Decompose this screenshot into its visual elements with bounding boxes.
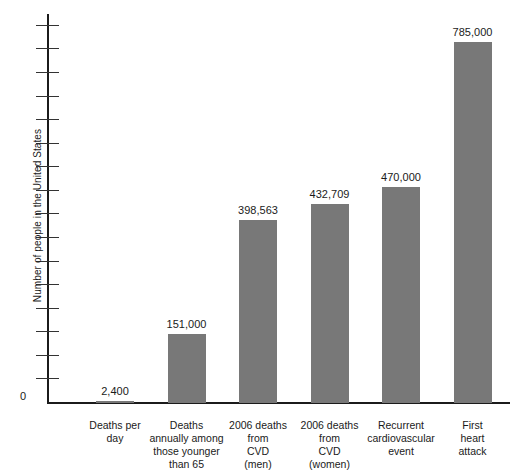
x-axis-category-label-line: from: [219, 432, 297, 445]
x-axis-category-label-line: Deaths per: [76, 419, 154, 432]
x-axis-category-label-line: from: [291, 432, 369, 445]
x-axis-category-label-line: event: [362, 445, 440, 458]
y-axis-tick: [36, 48, 59, 49]
y-axis-tick: [36, 25, 59, 26]
x-axis-category-label-line: 2006 deaths: [291, 419, 369, 432]
x-axis-category-label: 2006 deathsfromCVD(women): [291, 419, 369, 471]
x-axis-category-label: Firstheartattack: [434, 419, 512, 458]
y-axis-tick: [36, 378, 59, 379]
bar: [96, 401, 134, 403]
bar-value-label: 470,000: [356, 171, 446, 183]
bar-value-label: 398,563: [213, 204, 303, 216]
x-axis-category-label: Deaths perday: [76, 419, 154, 445]
bar: [382, 187, 420, 403]
x-axis-category-label-line: (women): [291, 458, 369, 471]
x-axis-category-label: Deathsannually amongthose youngerthan 65: [148, 419, 226, 471]
x-axis-category-label-line: those younger: [148, 445, 226, 458]
bar: [168, 334, 206, 403]
y-axis-tick: [36, 355, 59, 356]
y-axis-zero-label: 0: [20, 390, 26, 402]
bar-value-label: 151,000: [142, 318, 232, 330]
x-axis-category-label: 2006 deathsfromCVD(men): [219, 419, 297, 471]
x-axis-category-label-line: (men): [219, 458, 297, 471]
x-axis-category-label-line: heart: [434, 432, 512, 445]
bar-value-label: 785,000: [428, 26, 518, 38]
x-axis-category-label-line: than 65: [148, 458, 226, 471]
bar-value-label: 432,709: [285, 188, 375, 200]
y-axis-tick: [36, 331, 59, 332]
bar: [239, 220, 277, 403]
y-axis-title: Number of people in the United States: [32, 116, 43, 316]
bar: [454, 42, 492, 403]
x-axis-category-label-line: First: [434, 419, 512, 432]
bar: [311, 204, 349, 403]
bar-value-label: 2,400: [70, 385, 160, 397]
x-axis-category-label-line: Deaths: [148, 419, 226, 432]
x-axis-category-label-line: 2006 deaths: [219, 419, 297, 432]
y-axis-tick: [36, 72, 59, 73]
x-axis-category-label-line: cardiovascular: [362, 432, 440, 445]
x-axis-category-label: Recurrentcardiovascularevent: [362, 419, 440, 458]
x-axis-category-label-line: CVD: [219, 445, 297, 458]
x-axis-category-label-line: attack: [434, 445, 512, 458]
y-axis-tick: [36, 96, 59, 97]
x-axis-category-label-line: day: [76, 432, 154, 445]
x-axis-category-label-line: Recurrent: [362, 419, 440, 432]
x-axis-category-label-line: annually among: [148, 432, 226, 445]
bar-chart: Number of people in the United States 0 …: [0, 0, 523, 476]
x-axis-category-label-line: CVD: [291, 445, 369, 458]
